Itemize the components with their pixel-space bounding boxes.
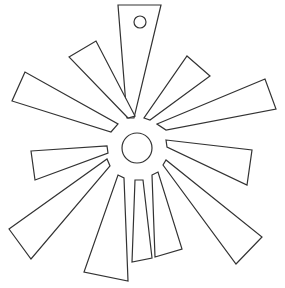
center-circle (122, 133, 152, 163)
ray-bottom-center (132, 180, 152, 262)
sunburst-drawing (0, 0, 285, 288)
hanging-hole (134, 16, 146, 28)
ray-bottom-left (84, 175, 128, 281)
